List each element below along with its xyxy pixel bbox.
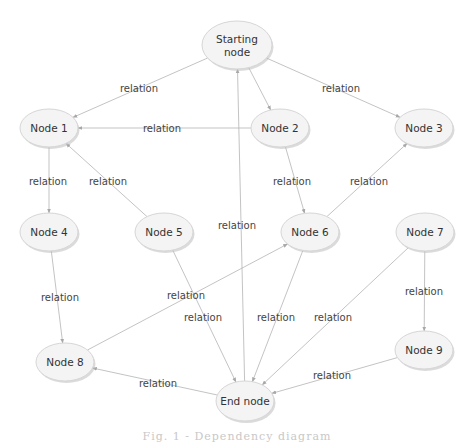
node-label: End node — [220, 395, 270, 407]
node-label: Node 8 — [46, 356, 83, 368]
node-n7[interactable]: Node 7 — [396, 213, 456, 253]
node-n5[interactable]: Node 5 — [135, 213, 195, 253]
node-label: Node 3 — [405, 122, 442, 134]
edge-label-start-to-n3: relation — [322, 83, 360, 94]
node-label: Node 7 — [406, 226, 443, 238]
edge-start-to-n2 — [249, 68, 271, 110]
node-n3[interactable]: Node 3 — [395, 109, 455, 149]
node-label: Node 6 — [291, 226, 329, 238]
edge-label-end-to-n8: relation — [139, 378, 177, 389]
node-n4[interactable]: Node 4 — [20, 213, 80, 253]
edge-label-n7-to-n9: relation — [405, 286, 443, 297]
edge-label-n6-to-end: relation — [257, 312, 295, 323]
node-start[interactable]: Startingnode — [202, 21, 274, 71]
node-label: Starting — [216, 33, 258, 45]
edge-label-end-to-start: relation — [218, 220, 256, 231]
edge-label-n2-to-n1: relation — [143, 123, 181, 134]
edge-label-n1-to-n4: relation — [29, 176, 67, 187]
figure-caption: Fig. 1 - Dependency diagram — [0, 430, 474, 443]
edge-label-start-to-n1: relation — [120, 83, 158, 94]
node-n8[interactable]: Node 8 — [36, 343, 96, 383]
node-label: Node 9 — [405, 344, 442, 356]
edge-label-n9-to-end: relation — [313, 370, 351, 381]
node-label: Node 1 — [30, 122, 67, 134]
edge-label-n7-to-end: relation — [314, 312, 352, 323]
node-n2[interactable]: Node 2 — [251, 109, 311, 149]
node-label: Node 2 — [261, 122, 298, 134]
edge-label-n6-to-n3: relation — [350, 176, 388, 187]
edge-label-n4-to-n8: relation — [41, 292, 79, 303]
node-label: Node 4 — [30, 226, 68, 238]
edge-label-n8-to-n6: relation — [167, 290, 205, 301]
node-label: Node 5 — [145, 226, 182, 238]
node-n6[interactable]: Node 6 — [281, 213, 341, 253]
edge-label-n5-to-end: relation — [184, 312, 222, 323]
node-n1[interactable]: Node 1 — [20, 109, 80, 149]
edge-label-n2-to-n6: relation — [273, 176, 311, 187]
node-n9[interactable]: Node 9 — [395, 331, 455, 371]
edge-label-n5-to-n1: relation — [89, 176, 127, 187]
node-label: node — [224, 46, 250, 58]
node-end[interactable]: End node — [216, 381, 276, 423]
